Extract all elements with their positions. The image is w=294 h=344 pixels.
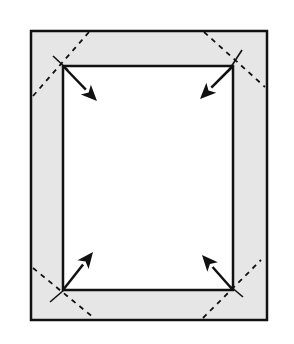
frame-diagram [0, 0, 294, 344]
picture-frame [31, 31, 267, 320]
